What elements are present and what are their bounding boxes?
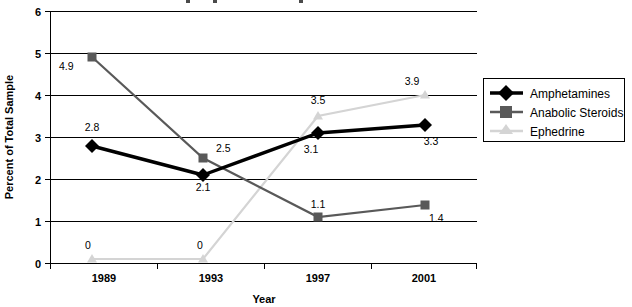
y-axis-title: Percent of Total Sample [3,75,15,200]
data-label-ephedrine-1997: 3.5 [311,94,326,106]
legend-label-ephedrine: Ephedrine [530,125,585,139]
amphetamines-marker-2001 [418,118,432,132]
y-tick-marks [45,12,50,264]
line-chart: 6 5 4 3 2 1 0 Percent of Total Sample 19… [0,0,632,307]
data-label-steroids-1997: 1.1 [311,198,326,210]
data-labels: 4.9 2.5 1.1 1.4 2.8 2.1 3.1 3.3 0 0 3.5 … [59,60,444,251]
ephedrine-marker-2001 [420,90,430,99]
data-label-amphetamines-1989: 2.8 [85,121,100,133]
y-tick-label-4: 4 [35,90,42,102]
x-tick-label-2001: 2001 [412,272,436,284]
legend-item-anabolic-steroids[interactable]: Anabolic Steroids [490,106,623,120]
data-label-amphetamines-1993: 2.1 [196,181,211,193]
y-tick-label-3: 3 [35,132,41,144]
y-tick-label-1: 1 [35,216,41,228]
series-amphetamines [85,118,432,182]
data-label-amphetamines-1997: 3.1 [304,143,319,155]
chart-title-clipped [186,0,303,3]
anabolic-steroids-marker-2001 [421,201,430,210]
x-tick-label-1993: 1993 [199,272,223,284]
amphetamines-line [92,125,425,175]
data-label-steroids-1989: 4.9 [59,60,74,72]
amphetamines-marker-1989 [85,139,99,153]
anabolic-steroids-marker-1993 [199,154,208,163]
chart-container: 6 5 4 3 2 1 0 Percent of Total Sample 19… [0,0,632,307]
legend-square-icon [500,106,512,118]
anabolic-steroids-marker-1997 [314,213,323,222]
x-tick-marks [51,264,477,270]
x-tick-label-1989: 1989 [92,272,116,284]
x-axis-tick-labels: 1989 1993 1997 2001 [92,272,436,284]
legend-label-anabolic-steroids: Anabolic Steroids [530,106,623,120]
data-label-steroids-1993: 2.5 [216,142,231,154]
y-tick-label-5: 5 [35,48,41,60]
legend: Amphetamines Anabolic Steroids Ephedrine [484,79,625,142]
series-ephedrine [87,90,430,263]
y-tick-label-0: 0 [35,258,41,270]
y-axis-tick-labels: 6 5 4 3 2 1 0 [35,6,42,270]
y-tick-label-2: 2 [35,174,41,186]
anabolic-steroids-marker-1989 [88,53,97,62]
data-label-steroids-2001: 1.4 [429,212,444,224]
y-tick-label-6: 6 [35,6,41,18]
data-label-amphetamines-2001: 3.3 [424,135,439,147]
x-axis-title: Year [252,293,276,305]
data-label-ephedrine-1993: 0 [197,239,203,251]
ephedrine-line [92,95,425,259]
x-tick-label-1997: 1997 [306,272,330,284]
legend-item-amphetamines[interactable]: Amphetamines [490,85,610,101]
legend-label-amphetamines: Amphetamines [530,87,610,101]
data-label-ephedrine-1989: 0 [85,239,91,251]
data-label-ephedrine-2001: 3.9 [405,75,420,87]
